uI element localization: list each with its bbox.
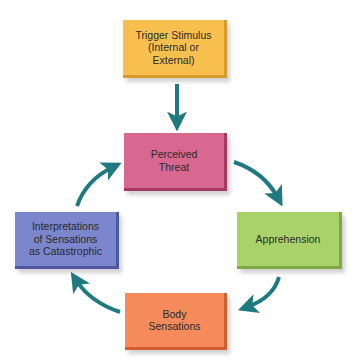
node-apprehension: Apprehension [237, 212, 342, 269]
node-catastrophic-interpretations: Interpretations of Sensations as Catastr… [15, 212, 119, 269]
arrow-apprehension-to-body [247, 277, 279, 307]
node-trigger-stimulus: Trigger Stimulus (Internal or External) [123, 20, 227, 78]
arrow-interpretation-to-threat [77, 167, 113, 206]
arrow-body-to-interpretation [76, 280, 120, 312]
node-body-sensations: Body Sensations [125, 293, 227, 350]
arrow-threat-to-apprehension [234, 162, 278, 198]
node-perceived-threat: Perceived Threat [124, 133, 227, 191]
